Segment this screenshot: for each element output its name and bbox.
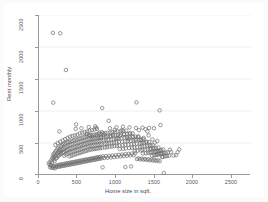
data-point [52,101,56,105]
data-point [54,143,58,147]
x-tickmark-0 [38,175,39,178]
y-tick-label-2000: 2000 [19,47,24,67]
x-tick-label-0: 0 [31,180,45,185]
x-tickmark-1500 [154,175,155,178]
data-point [85,130,89,134]
y-tick-label-2500: 2500 [19,15,24,35]
data-point [151,138,155,142]
data-point [162,171,166,175]
y-tick-label-1000: 1000 [19,110,24,130]
data-point [146,130,150,134]
x-tickmark-2000 [192,175,193,178]
plot-area [38,15,250,175]
scatter-plot-svg [39,15,251,175]
data-point [51,31,55,34]
x-tickmark-1000 [115,175,116,178]
data-point [147,134,151,138]
data-point [58,130,62,134]
y-tick-label-500: 500 [19,141,24,158]
y-tickmark-0 [35,174,38,175]
data-point [90,128,94,132]
x-tickmark-2500 [231,175,232,178]
plot-inner [39,15,250,174]
data-point [107,119,111,123]
data-point [80,127,84,131]
data-point [108,127,112,131]
data-point [71,134,75,138]
data-point [58,31,62,34]
x-tick-label-2500: 2500 [221,180,241,185]
data-point [129,165,133,169]
x-tick-label-1500: 1500 [144,180,164,185]
data-point [73,134,77,138]
x-axis-title: Home size in sqft. [4,189,252,195]
data-point [100,106,104,110]
x-tick-label-500: 500 [68,180,85,185]
data-point [88,129,92,133]
data-point [121,125,125,128]
data-point [80,131,84,135]
data-point [152,127,156,131]
data-point [87,125,91,129]
data-point [128,126,132,130]
y-tickmark-1500 [35,79,38,80]
data-point [64,68,68,72]
data-point [176,151,180,155]
x-tick-label-2000: 2000 [182,180,202,185]
data-point [134,126,138,129]
data-point [135,101,139,105]
y-tickmark-2000 [35,47,38,48]
y-tickmark-500 [35,143,38,144]
data-point [74,127,78,131]
data-point [115,126,119,130]
data-point-group [47,31,181,175]
data-point [124,165,128,169]
y-tickmark-2500 [35,15,38,16]
y-tickmark-1000 [35,111,38,112]
data-point [159,123,163,127]
data-point [141,126,145,130]
x-tick-label-1000: 1000 [105,180,125,185]
graph-region: Rent monthly 0 500 1000 1500 2000 2500 0… [4,3,264,197]
y-tick-label-1500: 1500 [19,78,24,98]
y-axis-title: Rent monthly [7,62,13,106]
data-point [147,126,151,129]
data-point [158,109,162,113]
x-tickmark-500 [76,175,77,178]
data-point [101,166,105,170]
y-tick-label-0: 0 [19,172,24,186]
data-point [74,123,78,127]
chart-screenshot: Rent monthly 0 500 1000 1500 2000 2500 0… [0,0,268,202]
